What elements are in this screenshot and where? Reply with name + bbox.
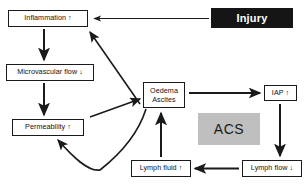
diagram-canvas: Inflammation ↑ Microvascular flow ↓ Perm…: [0, 0, 308, 186]
node-microvascular-flow[interactable]: Microvascular flow ↓: [6, 64, 94, 81]
edge-permeability-to-oedema: [90, 99, 140, 117]
node-oedema-ascites[interactable]: Oedema Ascites: [143, 82, 185, 108]
node-permeability[interactable]: Permeability ↑: [12, 119, 84, 136]
node-inflammation[interactable]: Inflammation ↑: [8, 10, 88, 27]
node-lymph-fluid[interactable]: Lymph fluid ↑: [131, 160, 191, 177]
node-oedema-line-1: Oedema: [150, 86, 178, 95]
edge-oedema-to-inflammation: [90, 32, 140, 104]
node-lymph-flow[interactable]: Lymph flow ↓: [242, 160, 302, 177]
label-acs: ACS: [198, 113, 260, 145]
banner-injury: Injury: [211, 8, 293, 28]
node-iap[interactable]: IAP ↑: [264, 85, 297, 101]
node-oedema-line-2: Ascites: [152, 95, 176, 104]
